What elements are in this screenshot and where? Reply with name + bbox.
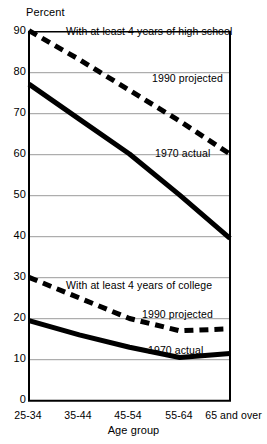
annotation-highschool-group: With at least 4 years of high school — [66, 25, 232, 37]
plot-area — [0, 0, 267, 444]
series-highschool-1990-projected — [29, 31, 230, 154]
series-highschool-1970-actual — [29, 84, 230, 238]
x-tick-label-55-64: 55-64 — [155, 410, 203, 421]
annotation-highschool-1970-actual: 1970 actual — [155, 147, 210, 159]
x-tick-label-35-44: 35-44 — [54, 410, 102, 421]
x-tick-label-65-and-over: 65 and over — [200, 410, 267, 421]
annotation-college-1990-projected: 1990 projected — [142, 308, 213, 320]
x-tick-label-25-34: 25-34 — [4, 410, 52, 421]
x-tick-label-45-54: 45-54 — [104, 410, 152, 421]
chart-figure: Percent 90 80 70 60 50 40 30 20 10 0 — [0, 0, 267, 444]
annotation-college-1970-actual: 1970 actual — [148, 344, 203, 356]
annotation-highschool-1990-projected: 1990 projected — [152, 72, 223, 84]
x-axis-title: Age group — [0, 424, 267, 436]
annotation-college-group: With at least 4 years of college — [66, 279, 212, 291]
